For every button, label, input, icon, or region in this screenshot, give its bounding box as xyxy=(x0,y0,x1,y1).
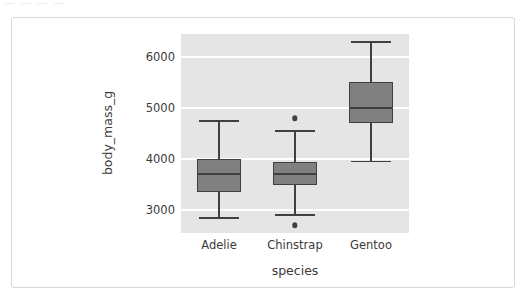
truncated-top-text: — — — — xyxy=(4,0,66,9)
y-axis-tick-label: 6000 xyxy=(135,50,175,64)
median-line xyxy=(273,173,317,175)
whisker-lower xyxy=(294,185,296,215)
chart-card: body_mass_g species 3000400050006000Adel… xyxy=(11,17,515,288)
whisker-cap-upper xyxy=(275,130,315,132)
whisker-cap-upper xyxy=(351,41,391,43)
whisker-cap-upper xyxy=(199,120,239,122)
x-axis-title: species xyxy=(272,263,319,278)
outlier-point xyxy=(292,115,297,120)
x-axis-tick-label: Adelie xyxy=(201,238,237,252)
whisker-cap-lower xyxy=(199,217,239,219)
whisker-upper xyxy=(294,131,296,162)
outlier-point xyxy=(292,223,297,228)
y-axis-tick-label: 3000 xyxy=(135,203,175,217)
box-gentoo xyxy=(349,82,393,123)
y-axis-tick-label: 5000 xyxy=(135,101,175,115)
x-axis-tick-label: Gentoo xyxy=(350,238,392,252)
gridline xyxy=(181,56,409,57)
whisker-lower xyxy=(370,123,372,161)
whisker-cap-lower xyxy=(351,161,391,163)
plot-panel xyxy=(181,34,409,233)
y-axis-title: body_mass_g xyxy=(100,91,115,175)
whisker-upper xyxy=(370,42,372,83)
median-line xyxy=(349,107,393,109)
x-axis-tick-label: Chinstrap xyxy=(267,238,322,252)
boxplot-figure: body_mass_g species 3000400050006000Adel… xyxy=(12,18,516,289)
median-line xyxy=(197,173,241,175)
whisker-cap-lower xyxy=(275,214,315,216)
y-axis-tick-label: 4000 xyxy=(135,152,175,166)
whisker-lower xyxy=(218,192,220,218)
box-adelie xyxy=(197,159,241,192)
whisker-upper xyxy=(218,121,220,159)
